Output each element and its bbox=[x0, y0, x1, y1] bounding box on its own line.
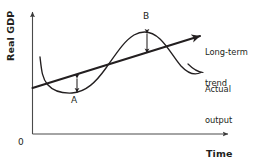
business-cycle-diagram: Real GDP Time 0 A B Long-term trend Actu… bbox=[0, 0, 263, 168]
actual-output-label: Actual output bbox=[205, 64, 232, 145]
y-axis-label: Real GDP bbox=[5, 8, 17, 64]
origin-label: 0 bbox=[18, 137, 24, 148]
point-b-label: B bbox=[143, 11, 149, 22]
long-term-trend-label-line1: Long-term bbox=[205, 47, 248, 57]
actual-output-label-line1: Actual bbox=[205, 84, 232, 94]
actual-output-leader-line bbox=[188, 64, 203, 73]
actual-output-label-line2: output bbox=[205, 115, 232, 125]
actual-output-curve bbox=[40, 32, 201, 93]
x-axis-label: Time bbox=[206, 148, 232, 160]
long-term-trend-line bbox=[33, 36, 201, 88]
point-a-label: A bbox=[71, 95, 77, 106]
